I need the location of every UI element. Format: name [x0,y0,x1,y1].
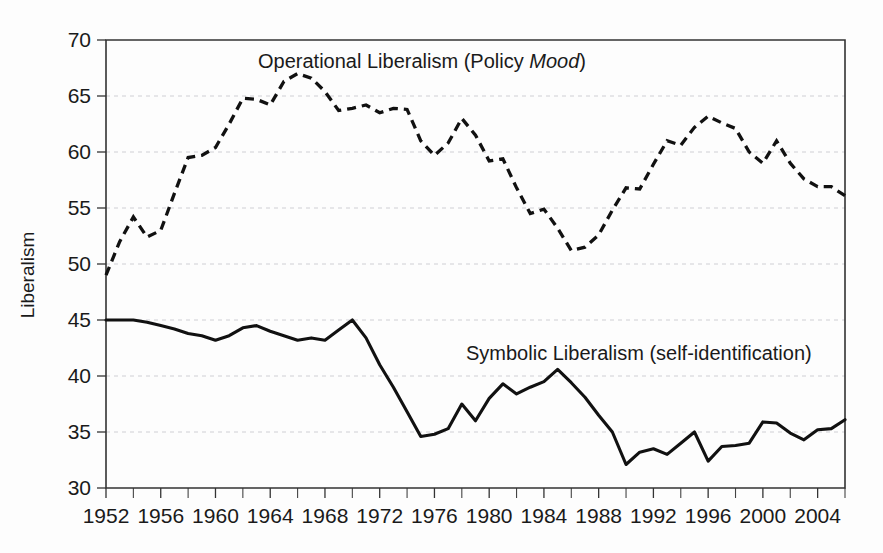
x-tick-label-1968: 1968 [302,504,349,527]
y-tick-label-30: 30 [68,476,91,499]
y-tick-label-45: 45 [68,308,91,331]
x-tick-label-1952: 1952 [83,504,130,527]
annotation-operational-liberalism: Operational Liberalism (Policy Mood) [258,50,586,72]
annotation-operational-italic: Mood [529,50,580,72]
x-tick-label-2004: 2004 [794,504,841,527]
x-tick-label-2000: 2000 [740,504,787,527]
y-tick-label-55: 55 [68,196,91,219]
y-tick-label-50: 50 [68,252,91,275]
series-operational-liberalism-line [106,74,845,276]
x-tick-label-1992: 1992 [630,504,677,527]
x-tick-label-1964: 1964 [247,504,294,527]
liberalism-time-series-chart: 303540455055606570 195219561960196419681… [0,0,883,553]
y-axis-title: Liberalism [17,232,38,319]
y-tick-label-65: 65 [68,84,91,107]
x-tick-label-1972: 1972 [356,504,403,527]
annotation-operational-prefix: Operational Liberalism (Policy [258,50,529,72]
chart-figure: 303540455055606570 195219561960196419681… [0,0,883,553]
x-tick-label-1988: 1988 [575,504,622,527]
x-tick-label-1976: 1976 [411,504,458,527]
x-tick-label-1980: 1980 [466,504,513,527]
annotation-operational-suffix: ) [579,50,586,72]
y-axis-ticks-group [97,40,106,488]
x-tick-label-1996: 1996 [685,504,732,527]
y-tick-label-40: 40 [68,364,91,387]
y-axis-tick-labels-group: 303540455055606570 [68,28,91,499]
x-tick-label-1956: 1956 [137,504,184,527]
data-series-group [106,74,845,465]
y-tick-label-35: 35 [68,420,91,443]
y-axis-title-group: Liberalism [17,232,38,319]
x-tick-label-1960: 1960 [192,504,239,527]
annotations-group: Operational Liberalism (Policy Mood) Sym… [258,50,812,364]
annotation-symbolic-liberalism: Symbolic Liberalism (self-identification… [466,342,812,364]
x-axis-tick-labels-group: 1952195619601964196819721976198019841988… [83,504,842,527]
x-axis-ticks-group [106,488,845,498]
y-tick-label-70: 70 [68,28,91,51]
y-tick-label-60: 60 [68,140,91,163]
x-tick-label-1984: 1984 [521,504,568,527]
